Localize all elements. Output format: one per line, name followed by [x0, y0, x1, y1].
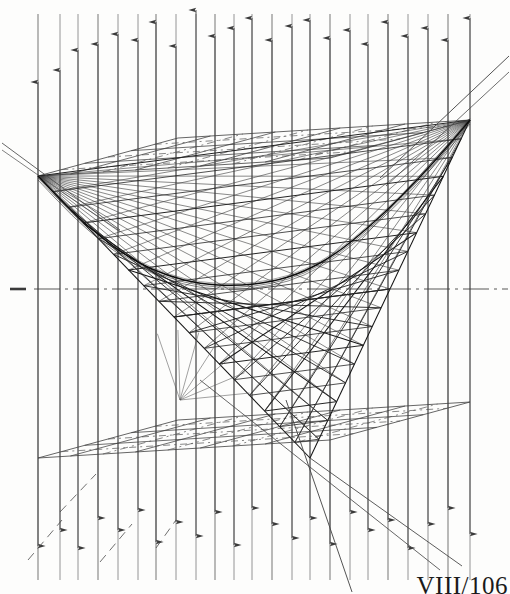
canvas-background — [0, 0, 510, 594]
geometry-drawing — [0, 0, 510, 594]
figure-root: VIII/106 — [0, 0, 510, 594]
